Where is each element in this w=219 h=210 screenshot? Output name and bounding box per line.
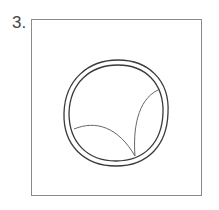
outer-ring-outer — [64, 60, 168, 166]
ring-drawing-icon — [0, 0, 219, 210]
outer-ring-inner — [69, 65, 163, 161]
curve-left — [74, 125, 135, 156]
curve-right — [135, 90, 158, 156]
